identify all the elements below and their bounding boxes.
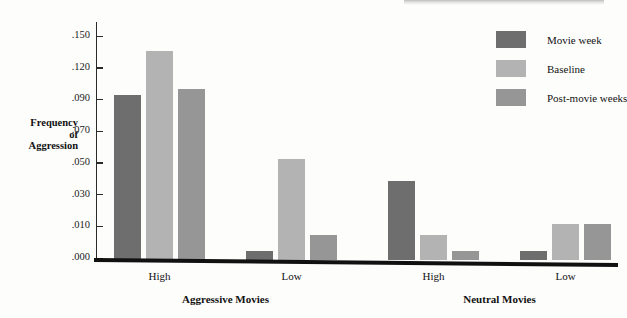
y-tick-mark [96,99,103,100]
bar [584,224,611,260]
legend-label-baseline: Baseline [547,63,585,75]
y-tick-mark [96,131,103,132]
legend-label-post-movie-weeks: Post-movie weeks [547,92,627,104]
legend-label-movie-week: Movie week [547,34,602,46]
y-tick-mark [96,226,103,227]
x-category-label: Low [510,270,621,282]
bar [278,159,305,260]
legend-swatch-movie-week [496,31,526,48]
bar [452,251,479,261]
x-category-label: High [378,270,489,282]
y-tick-label: .030 [50,188,90,199]
y-tick-label: .070 [50,124,90,135]
x-group-label: Neutral Movies [420,293,580,305]
cropped-title-remnant [404,0,604,5]
y-axis-line [96,22,97,260]
bar [146,51,173,260]
bar [420,235,447,260]
bar [520,251,547,261]
y-tick-label: .000 [50,251,90,262]
y-tick-label: .050 [50,156,90,167]
legend-swatch-baseline [496,60,526,77]
bar [178,89,205,260]
y-tick-label: .090 [50,92,90,103]
y-tick-label: .150 [50,29,90,40]
x-category-label: Low [236,270,347,282]
legend: Movie week Baseline Post-movie weeks [496,28,627,115]
legend-item[interactable]: Post-movie weeks [496,86,627,109]
bar [310,235,337,260]
legend-item[interactable]: Movie week [496,28,627,51]
x-group-label: Aggressive Movies [146,293,306,305]
y-tick-mark [96,162,103,163]
legend-swatch-post-movie-weeks [496,89,526,106]
y-tick-mark [96,194,103,195]
bar [114,95,141,260]
y-tick-label: .120 [50,61,90,72]
x-category-label: High [104,270,215,282]
bar [388,181,415,260]
y-tick-mark [96,67,103,68]
y-tick-mark [96,36,103,37]
y-axis-label-line-3: Aggression [6,140,78,152]
y-tick-label: .010 [50,219,90,230]
bar [552,224,579,260]
chart-page: Frequency of Aggression .000.010.030.050… [0,0,627,318]
legend-item[interactable]: Baseline [496,57,627,80]
